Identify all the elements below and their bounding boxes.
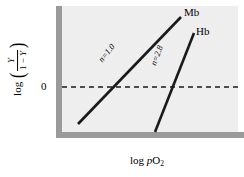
x-axis-label: log pO2 <box>56 154 238 168</box>
fraction-denominator-pre: 1 − <box>19 56 29 70</box>
x-axis-label-subscript: 2 <box>160 159 164 168</box>
series-label-hb: Hb <box>196 25 209 37</box>
left-paren: ( <box>8 73 29 78</box>
hill-plot-figure: log (Y1 − Y) 0 log pO2 Mb Hb n=1.0 n=2.8 <box>0 0 244 177</box>
fraction-denominator: 1 − Y <box>20 50 29 71</box>
y-axis-label: log (Y1 − Y) <box>7 33 29 105</box>
fraction-denominator-var: Y <box>19 51 29 56</box>
right-paren: ) <box>8 43 29 48</box>
y-axis-label-log: log <box>11 79 23 96</box>
x-axis-label-log: log <box>130 154 147 166</box>
fraction-numerator: Y <box>7 56 16 65</box>
y-axis-label-fraction: (Y1 − Y) <box>7 42 29 79</box>
series-label-mb: Mb <box>184 6 199 18</box>
y-tick-label-zero: 0 <box>41 80 47 92</box>
